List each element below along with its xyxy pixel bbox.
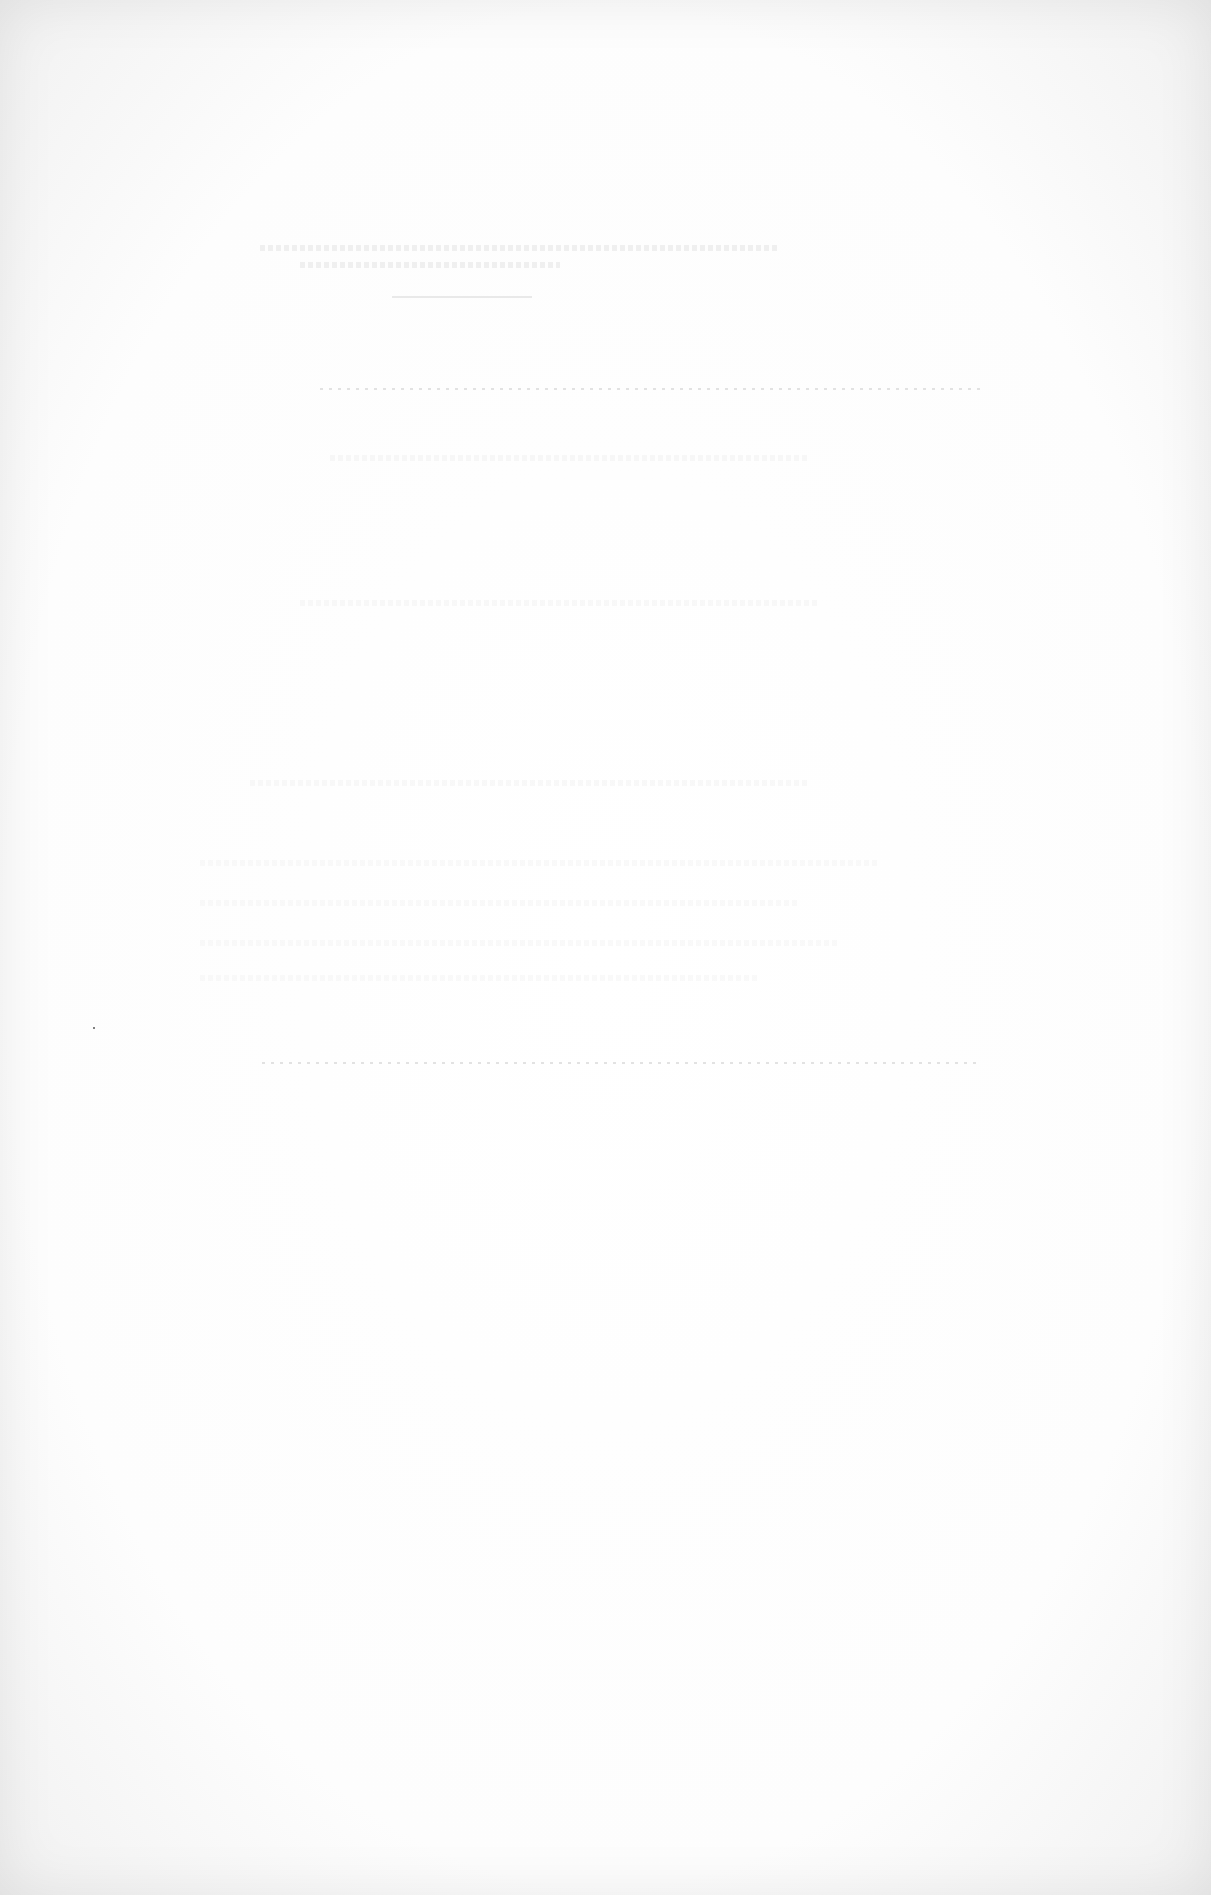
scanned-page: [0, 0, 1211, 1895]
faint-header-text: [260, 245, 780, 251]
faint-body-text: [200, 900, 800, 906]
faint-title-mark: [392, 296, 532, 298]
faint-body-text: [200, 975, 760, 981]
faint-body-text: [330, 455, 810, 461]
faint-header-text: [300, 262, 560, 268]
faint-body-text: [300, 600, 820, 606]
faint-body-text: [250, 780, 810, 786]
faint-body-text: [200, 860, 880, 866]
dotted-rule: [320, 388, 980, 390]
dotted-rule: [262, 1062, 982, 1064]
speck-mark: [93, 1027, 95, 1029]
faint-body-text: [200, 940, 840, 946]
page-edge-shadow: [0, 0, 1211, 1895]
